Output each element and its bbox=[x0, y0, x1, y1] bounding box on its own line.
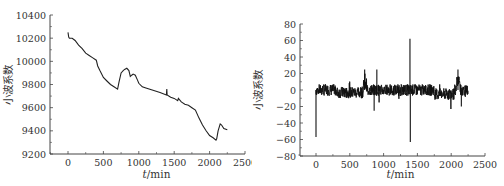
axes: 9200940096009800100001020010400050010001… bbox=[2, 10, 252, 181]
y-tick-label: 10200 bbox=[16, 33, 46, 44]
y-axis-label: 小波系数 bbox=[252, 69, 264, 110]
x-tick-label: 1500 bbox=[162, 157, 186, 168]
x-tick-label: 0 bbox=[65, 157, 71, 168]
y-tick-label: 0 bbox=[290, 85, 296, 96]
y-tick-label: 9600 bbox=[22, 102, 46, 113]
y-tick-label: −80 bbox=[276, 151, 296, 162]
y-tick-label: 10000 bbox=[16, 56, 46, 67]
x-tick-label: 2500 bbox=[473, 159, 497, 170]
y-tick-label: 60 bbox=[284, 35, 296, 46]
x-tick-label: 1000 bbox=[127, 157, 151, 168]
data-line bbox=[316, 74, 468, 109]
x-tick-label: 0 bbox=[313, 159, 319, 170]
x-axis-label: t/min bbox=[143, 168, 171, 180]
x-tick-label: 2000 bbox=[439, 159, 463, 170]
y-tick-label: −20 bbox=[276, 101, 296, 112]
y-tick-label: 20 bbox=[284, 68, 296, 79]
y-tick-label: 9200 bbox=[22, 149, 46, 160]
x-tick-label: 500 bbox=[94, 157, 112, 168]
x-tick-label: 2500 bbox=[233, 157, 252, 168]
x-tick-label: 2000 bbox=[198, 157, 222, 168]
y-axis-label: 小波系数 bbox=[2, 64, 14, 105]
x-axis-label: t/min bbox=[387, 168, 415, 180]
right-chart: −80−60−40−200204060800500100015002000250… bbox=[252, 0, 504, 186]
y-tick-label: 40 bbox=[284, 52, 296, 63]
y-tick-label: −40 bbox=[276, 118, 296, 129]
left-chart: 9200940096009800100001020010400050010001… bbox=[0, 0, 252, 186]
y-tick-label: 9400 bbox=[22, 125, 46, 136]
left-chart-svg: 9200940096009800100001020010400050010001… bbox=[0, 0, 252, 186]
x-tick-label: 500 bbox=[341, 159, 359, 170]
y-tick-label: 80 bbox=[284, 19, 296, 30]
y-tick-label: 10400 bbox=[16, 10, 46, 21]
y-tick-label: −60 bbox=[276, 134, 296, 145]
y-tick-label: 9800 bbox=[22, 79, 46, 90]
right-chart-svg: −80−60−40−200204060800500100015002000250… bbox=[252, 0, 504, 186]
data-line bbox=[68, 32, 227, 140]
